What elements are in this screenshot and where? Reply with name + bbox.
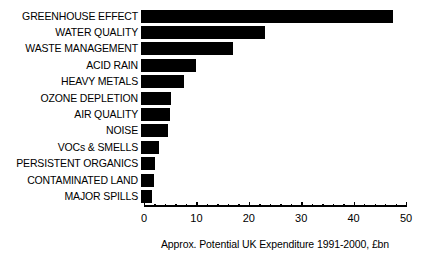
bar-row: CONTAMINATED LAND: [0, 172, 421, 188]
bar-track: [141, 190, 421, 203]
bar: [141, 108, 170, 121]
category-label: AIR QUALITY: [0, 109, 141, 120]
bar-row: OZONE DEPLETION: [0, 90, 421, 106]
bar-track: [141, 157, 421, 170]
x-axis-major-tick: [354, 202, 355, 207]
bar-track: [141, 108, 421, 121]
x-axis-minor-tick: [375, 204, 376, 207]
x-axis-minor-tick: [259, 204, 260, 207]
x-axis-minor-tick: [270, 204, 271, 207]
x-axis-major-tick: [144, 202, 145, 207]
x-axis-minor-tick: [165, 204, 166, 207]
bar: [141, 124, 168, 137]
x-axis-tick-label: 0: [141, 212, 147, 224]
x-axis-minor-tick: [291, 204, 292, 207]
category-label: VOCs & SMELLS: [0, 142, 141, 153]
bar-track: [141, 26, 421, 39]
category-label: HEAVY METALS: [0, 76, 141, 87]
x-axis-minor-tick: [396, 204, 397, 207]
x-axis-tick-label: 10: [190, 212, 202, 224]
category-label: CONTAMINATED LAND: [0, 175, 141, 186]
x-axis-minor-tick: [154, 204, 155, 207]
category-label: MAJOR SPILLS: [0, 191, 141, 202]
x-axis-minor-tick: [312, 204, 313, 207]
bar-row: VOCs & SMELLS: [0, 139, 421, 155]
bar: [141, 59, 196, 72]
category-label: WATER QUALITY: [0, 27, 141, 38]
x-axis-tick-label: 30: [295, 212, 307, 224]
x-axis-minor-tick: [385, 204, 386, 207]
x-axis-minor-tick: [217, 204, 218, 207]
x-axis-major-tick: [249, 202, 250, 207]
x-axis-minor-tick: [322, 204, 323, 207]
bar-track: [141, 42, 421, 55]
chart-plot-area: GREENHOUSE EFFECTWATER QUALITYWASTE MANA…: [0, 8, 421, 205]
bar-track: [141, 174, 421, 187]
bar: [141, 75, 184, 88]
bar-row: GREENHOUSE EFFECT: [0, 8, 421, 24]
bar-row: NOISE: [0, 123, 421, 139]
x-axis-minor-tick: [175, 204, 176, 207]
bar-track: [141, 10, 421, 23]
bar-row: WATER QUALITY: [0, 24, 421, 40]
category-label: NOISE: [0, 125, 141, 136]
x-axis-minor-tick: [364, 204, 365, 207]
x-axis-minor-tick: [186, 204, 187, 207]
bar-row: WASTE MANAGEMENT: [0, 41, 421, 57]
category-label: OZONE DEPLETION: [0, 93, 141, 104]
bar: [141, 26, 265, 39]
category-label: GREENHOUSE EFFECT: [0, 11, 141, 22]
bar: [141, 141, 159, 154]
x-axis-minor-tick: [333, 204, 334, 207]
bar-track: [141, 124, 421, 137]
bar: [141, 174, 154, 187]
bar-row: AIR QUALITY: [0, 106, 421, 122]
bar-track: [141, 59, 421, 72]
bar-track: [141, 75, 421, 88]
category-label: WASTE MANAGEMENT: [0, 43, 141, 54]
bar: [141, 10, 393, 23]
bar-row: ACID RAIN: [0, 57, 421, 73]
bar: [141, 190, 152, 203]
x-axis-minor-tick: [207, 204, 208, 207]
bar-row: HEAVY METALS: [0, 74, 421, 90]
x-axis-major-tick: [196, 202, 197, 207]
category-label: PERSISTENT ORGANICS: [0, 158, 141, 169]
bar: [141, 92, 171, 105]
bar: [141, 157, 155, 170]
x-axis-tick-label: 50: [400, 212, 412, 224]
x-axis-major-tick: [301, 202, 302, 207]
x-axis-title: Approx. Potential UK Expenditure 1991-20…: [144, 238, 406, 250]
x-axis-minor-tick: [238, 204, 239, 207]
category-label: ACID RAIN: [0, 60, 141, 71]
x-axis-major-tick: [406, 202, 407, 207]
bar-track: [141, 92, 421, 105]
bar-row: PERSISTENT ORGANICS: [0, 156, 421, 172]
bar-track: [141, 141, 421, 154]
bar: [141, 42, 233, 55]
x-axis-minor-tick: [228, 204, 229, 207]
x-axis-tick-label: 40: [347, 212, 359, 224]
x-axis-minor-tick: [343, 204, 344, 207]
x-axis-tick-label: 20: [243, 212, 255, 224]
x-axis-line: 01020304050: [144, 205, 406, 207]
x-axis-minor-tick: [280, 204, 281, 207]
bar-row: MAJOR SPILLS: [0, 188, 421, 204]
bar-chart: GREENHOUSE EFFECTWATER QUALITYWASTE MANA…: [0, 0, 421, 267]
